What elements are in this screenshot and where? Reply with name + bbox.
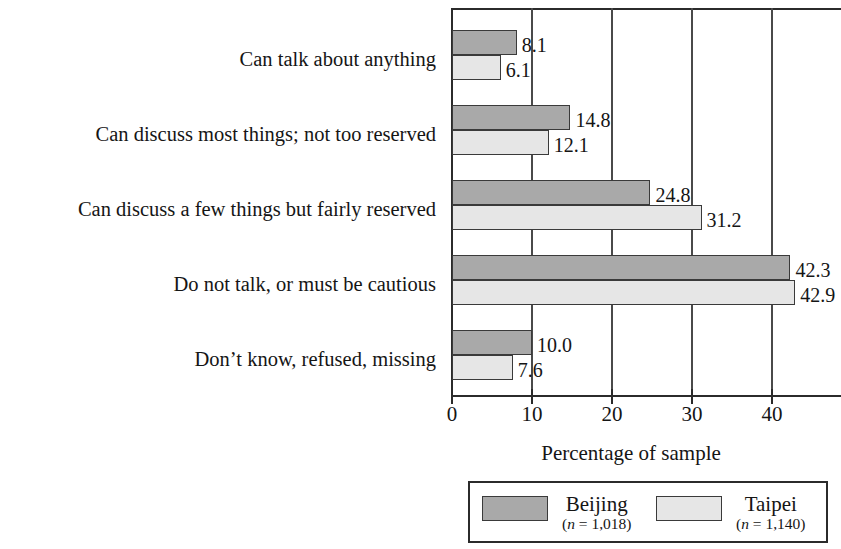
- legend-swatch-beijing: [482, 496, 548, 521]
- plot-area: 8.114.824.842.310.06.112.131.242.97.6: [451, 8, 841, 397]
- bar-value-beijing-1: 14.8: [575, 110, 610, 130]
- category-label-3: Do not talk, or must be cautious: [174, 274, 436, 295]
- bar-beijing-1: [452, 105, 570, 130]
- legend-sample-size-taipei: (n = 1,140): [736, 515, 805, 533]
- bar-taipei-3: [452, 280, 795, 305]
- category-label-4: Don’t know, refused, missing: [195, 349, 436, 370]
- bar-beijing-0: [452, 30, 517, 55]
- legend-label-taipei: Taipei: [736, 493, 805, 515]
- bar-taipei-1: [452, 130, 549, 155]
- legend-sample-size-beijing: (n = 1,018): [562, 515, 631, 533]
- bar-taipei-0: [452, 55, 501, 80]
- bar-value-beijing-2: 24.8: [655, 185, 690, 205]
- x-tick-label-10: 10: [522, 404, 543, 425]
- bar-value-taipei-3: 42.9: [800, 285, 835, 305]
- x-tick-label-20: 20: [602, 404, 623, 425]
- x-axis-line: [451, 395, 841, 397]
- gridline-40: [771, 8, 773, 397]
- bar-value-beijing-4: 10.0: [537, 335, 572, 355]
- x-axis-title: Percentage of sample: [451, 443, 811, 464]
- bar-taipei-2: [452, 205, 702, 230]
- legend-entry-taipei[interactable]: Taipei(n = 1,140): [656, 493, 805, 533]
- bar-value-taipei-1: 12.1: [554, 135, 589, 155]
- plot-top-border: [451, 8, 841, 10]
- bar-value-taipei-4: 7.6: [518, 360, 543, 380]
- category-axis-labels: Can talk about anythingCan discuss most …: [0, 8, 444, 397]
- bar-value-beijing-3: 42.3: [795, 260, 830, 280]
- x-tick-label-40: 40: [762, 404, 783, 425]
- x-tick-label-0: 0: [447, 404, 458, 425]
- legend-entry-beijing[interactable]: Beijing(n = 1,018): [482, 493, 631, 533]
- bar-beijing-3: [452, 255, 790, 280]
- category-label-1: Can discuss most things; not too reserve…: [95, 124, 436, 145]
- bar-value-beijing-0: 8.1: [522, 35, 547, 55]
- category-label-2: Can discuss a few things but fairly rese…: [78, 199, 436, 220]
- x-tick-label-30: 30: [682, 404, 703, 425]
- bar-taipei-4: [452, 355, 513, 380]
- category-label-0: Can talk about anything: [240, 49, 436, 70]
- gridline-30: [691, 8, 693, 397]
- bar-beijing-2: [452, 180, 650, 205]
- legend-swatch-taipei: [656, 496, 722, 521]
- chart-legend: Beijing(n = 1,018)Taipei(n = 1,140): [468, 481, 828, 543]
- bar-value-taipei-2: 31.2: [707, 210, 742, 230]
- bar-value-taipei-0: 6.1: [506, 60, 531, 80]
- legend-label-beijing: Beijing: [562, 493, 631, 515]
- bar-beijing-4: [452, 330, 532, 355]
